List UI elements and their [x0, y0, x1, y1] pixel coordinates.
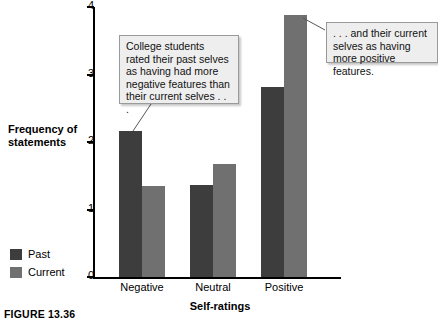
callout-right-line3: more positive features. — [333, 52, 431, 77]
callout-right-line2: selves as having — [333, 40, 431, 53]
callout-right: . . . and their current selves as having… — [326, 22, 438, 63]
callout-right-line1: . . . and their current — [333, 27, 431, 40]
figure-caption: FIGURE 13.36 — [4, 308, 75, 320]
callout-left-line1: College students — [126, 40, 232, 53]
callout-left-line3: as having had more — [126, 65, 232, 78]
callout-left-line5: their current selves . . . — [126, 90, 232, 115]
callout-left: College students rated their past selves… — [119, 35, 239, 104]
callout-left-line2: rated their past selves — [126, 53, 232, 66]
callout-left-line4: negative features than — [126, 78, 232, 91]
